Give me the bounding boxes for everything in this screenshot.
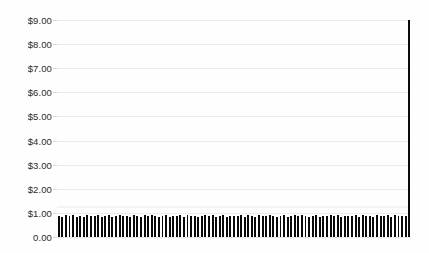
bar (115, 216, 117, 237)
bar (322, 216, 324, 237)
bar (162, 216, 164, 237)
bar (122, 216, 124, 237)
gridline (57, 237, 411, 238)
bar (262, 216, 264, 237)
bar (380, 216, 382, 237)
bar (280, 216, 282, 237)
y-axis-tick-label: $7.00 (0, 63, 52, 74)
plot-area (57, 20, 411, 237)
bar (212, 215, 214, 237)
y-axis-tick-label: $2.00 (0, 183, 52, 194)
bar (97, 215, 99, 237)
bar (376, 215, 378, 237)
bar (401, 216, 403, 237)
bar (387, 215, 389, 237)
bar (326, 216, 328, 237)
bar (65, 215, 67, 237)
bar (287, 217, 289, 237)
y-axis-tick-label: $6.00 (0, 87, 52, 98)
bar (144, 215, 146, 237)
bar (362, 215, 364, 237)
bar (398, 216, 400, 237)
bar (94, 216, 96, 237)
bar (333, 216, 335, 237)
bar (394, 215, 396, 237)
bar (247, 215, 249, 237)
bar (69, 216, 71, 237)
y-axis-tick-mark (53, 237, 57, 238)
bar (208, 216, 210, 237)
bar (405, 216, 407, 237)
bar (330, 215, 332, 237)
bar (201, 216, 203, 237)
bar (265, 216, 267, 237)
bar (272, 216, 274, 237)
bar (269, 215, 271, 237)
y-axis-tick-label: $5.00 (0, 111, 52, 122)
bar (176, 216, 178, 237)
bar (219, 216, 221, 237)
bar (194, 216, 196, 237)
bar (355, 215, 357, 237)
bar (240, 215, 242, 237)
bar (244, 217, 246, 237)
bar (237, 216, 239, 237)
bar (254, 217, 256, 237)
bar (129, 217, 131, 237)
bar (108, 215, 110, 237)
bar (147, 216, 149, 237)
bar (90, 216, 92, 237)
bar (136, 216, 138, 237)
bar (294, 215, 296, 237)
bar (226, 217, 228, 237)
bar (172, 216, 174, 237)
bar (251, 216, 253, 237)
bar (154, 216, 156, 237)
bar (101, 217, 103, 237)
bar (111, 217, 113, 237)
y-axis-tick-label: $1.00 (0, 207, 52, 218)
bar (187, 215, 189, 237)
bar (190, 216, 192, 237)
bar (165, 215, 167, 237)
bar (347, 216, 349, 237)
bar (183, 217, 185, 237)
bar-series (57, 20, 411, 237)
bar (358, 217, 360, 237)
bar (222, 215, 224, 237)
bar (197, 217, 199, 237)
bar (283, 215, 285, 237)
bar (204, 215, 206, 237)
bar (258, 215, 260, 237)
bar (340, 217, 342, 237)
bar (372, 217, 374, 237)
bar (315, 215, 317, 237)
bar (276, 217, 278, 237)
bar-outlier (408, 20, 410, 237)
y-axis-tick-label: $9.00 (0, 15, 52, 26)
bar (61, 217, 63, 237)
bar (133, 215, 135, 237)
bar (72, 215, 74, 237)
bar (297, 216, 299, 237)
bar (83, 217, 85, 237)
bar (104, 216, 106, 237)
bar (383, 216, 385, 237)
bar (305, 216, 307, 237)
bar (215, 217, 217, 237)
bar (58, 216, 60, 237)
bar (344, 216, 346, 237)
bar (140, 217, 142, 237)
bar (390, 217, 392, 237)
bar (79, 216, 81, 237)
bar (233, 216, 235, 237)
y-axis-tick-label: $3.00 (0, 159, 52, 170)
bar (365, 216, 367, 237)
bar (369, 216, 371, 237)
y-axis-tick-label: $4.00 (0, 135, 52, 146)
bar (290, 216, 292, 237)
bar (126, 216, 128, 237)
bar (229, 216, 231, 237)
bar-chart: $9.00$8.00$7.00$6.00$5.00$4.00$3.00$2.00… (0, 0, 429, 253)
bar (351, 216, 353, 237)
